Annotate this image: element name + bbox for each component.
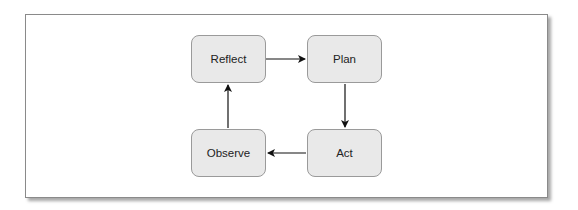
node-reflect-label: Reflect <box>211 53 247 65</box>
node-reflect[interactable]: Reflect <box>191 35 266 83</box>
node-act[interactable]: Act <box>307 129 382 177</box>
node-observe-label: Observe <box>207 147 250 159</box>
node-plan-label: Plan <box>333 53 356 65</box>
diagram-frame <box>25 14 548 198</box>
node-act-label: Act <box>336 147 353 159</box>
node-plan[interactable]: Plan <box>307 35 382 83</box>
node-observe[interactable]: Observe <box>191 129 266 177</box>
